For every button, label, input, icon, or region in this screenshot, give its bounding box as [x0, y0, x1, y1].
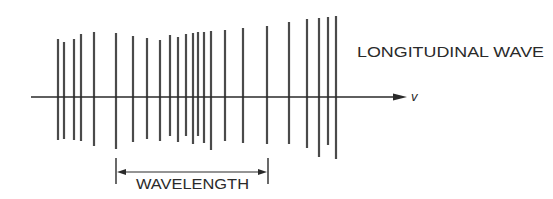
longitudinal-wave-diagram: v LONGITUDINAL WAVE WAVELENGTH — [0, 0, 553, 199]
arrow-right-icon — [258, 169, 267, 175]
diagram-title: LONGITUDINAL WAVE — [357, 43, 544, 60]
arrow-head-icon — [393, 94, 407, 101]
velocity-label: v — [411, 89, 419, 104]
wavelength-label: WAVELENGTH — [136, 176, 249, 192]
arrow-left-icon — [117, 169, 126, 175]
compression-lines — [58, 16, 336, 159]
